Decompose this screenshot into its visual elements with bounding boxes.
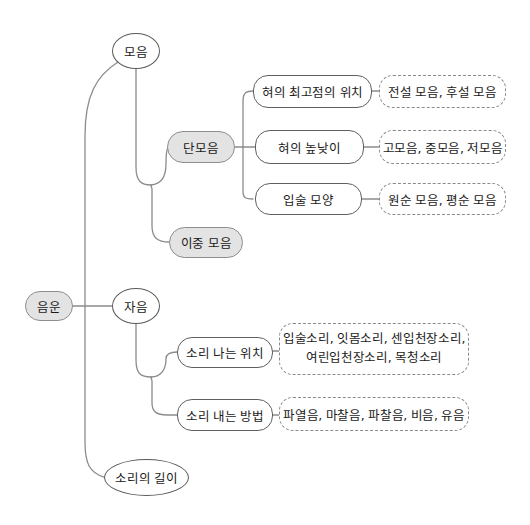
sound-manner-label: 소리 내는 방법: [186, 406, 264, 425]
connector-fan-up: [243, 91, 253, 147]
tongue-height-result-label: 고모음, 중모음, 저모음: [383, 138, 503, 157]
connector-trunk: [85, 62, 118, 477]
lip-shape-label: 입술 모양: [283, 190, 333, 209]
sound-manner-node: 소리 내는 방법: [177, 399, 273, 431]
lip-shape-node: 입술 모양: [255, 183, 362, 215]
tongue-position-label: 혀의 최고점의 위치: [262, 82, 363, 101]
lip-shape-result: 원순 모음, 평순 모음: [379, 183, 506, 215]
tongue-position-node: 혀의 최고점의 위치: [253, 75, 372, 108]
connector-fan-down: [243, 147, 253, 199]
vowel-node: 모음: [112, 33, 160, 69]
lip-shape-result-label: 원순 모음, 평순 모음: [388, 190, 496, 209]
tongue-position-result: 전설 모음, 후설 모음: [379, 75, 506, 108]
connector-junction-monophthong: [151, 148, 168, 185]
tongue-height-label: 혀의 높낮이: [278, 138, 340, 157]
tongue-height-node: 혀의 높낮이: [255, 130, 364, 164]
connector-junction-diphthong: [151, 185, 169, 242]
vowel-node-label: 모음: [124, 42, 147, 61]
diphthong-node: 이중 모음: [169, 227, 243, 258]
phoneme-diagram: 음운 모음 자음 소리의 길이 단모음 이중 모음 혀의 최고점의 위치 혀의 …: [0, 0, 530, 525]
tongue-height-result: 고모음, 중모음, 저모음: [379, 130, 506, 164]
sound-manner-result-label: 파열음, 마찰음, 파찰음, 비음, 유음: [283, 405, 465, 424]
root-node-label: 음운: [37, 297, 60, 316]
tongue-position-result-label: 전설 모음, 후설 모음: [388, 82, 496, 101]
sound-place-result-line1: 입술소리, 잇몸소리, 센입천장소리,: [283, 330, 465, 349]
monophthong-node: 단모음: [167, 131, 235, 163]
consonant-node-label: 자음: [124, 297, 147, 316]
connector-junction-place: [151, 352, 177, 377]
diphthong-label: 이중 모음: [181, 233, 231, 252]
monophthong-label: 단모음: [183, 138, 218, 157]
connector-vowel-junction: [136, 69, 151, 185]
root-node-phoneme: 음운: [25, 291, 73, 321]
sound-place-result-line2: 여린입천장소리, 목청소리: [306, 349, 442, 368]
sound-length-node: 소리의 길이: [104, 459, 189, 496]
sound-manner-result: 파열음, 마찰음, 파찰음, 비음, 유음: [279, 397, 469, 431]
sound-place-node: 소리 나는 위치: [177, 337, 273, 368]
sound-place-label: 소리 나는 위치: [186, 343, 264, 362]
consonant-node: 자음: [112, 288, 160, 324]
connector-consonant-junction: [136, 324, 151, 377]
connector-junction-manner: [151, 377, 177, 415]
sound-place-result: 입술소리, 잇몸소리, 센입천장소리, 여린입천장소리, 목청소리: [279, 323, 469, 375]
sound-length-label: 소리의 길이: [115, 468, 177, 487]
